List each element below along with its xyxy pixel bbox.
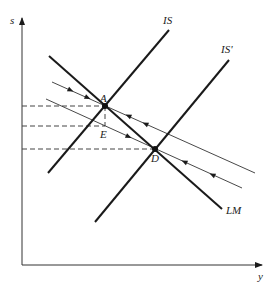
point-d-label: D <box>150 152 159 164</box>
arrow-right-icon <box>67 87 75 94</box>
trajectories <box>46 82 255 188</box>
point-a-label: A <box>99 92 107 104</box>
y-axis-label: s <box>10 14 14 26</box>
dashed-guides <box>22 106 155 149</box>
point-e-label: E <box>99 128 107 140</box>
is-lm-diagram: s y LM IS IS' A D E <box>0 0 277 290</box>
arrow-left-icon <box>124 112 132 119</box>
x-axis-label: y <box>257 270 263 282</box>
is-prime-label: IS' <box>220 43 233 55</box>
lm-curve <box>49 56 222 209</box>
arrow-left-icon <box>180 158 188 165</box>
arrow-right-icon <box>125 133 133 140</box>
curves <box>48 30 229 222</box>
arrow-left-icon <box>141 120 149 127</box>
lm-label: LM <box>225 204 242 216</box>
arrow-left-icon <box>208 171 216 178</box>
is-label: IS <box>162 14 173 26</box>
arrow-right-icon <box>84 94 92 101</box>
